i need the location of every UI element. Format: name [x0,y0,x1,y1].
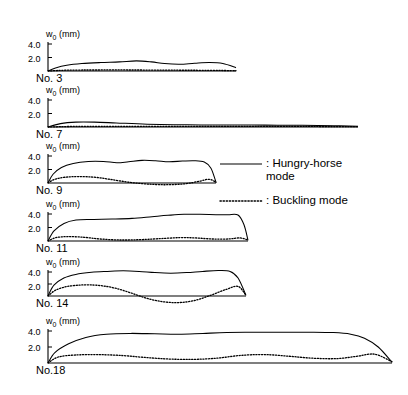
y-axis-label-panel-3: w0 (mm) [46,199,80,211]
curve-buckling-panel-3 [48,237,248,241]
y-axis-label-panel-4: w0 (mm) [46,257,80,269]
y-tick-4-0-panel-2: 4.0 [28,152,41,162]
panel-label-no-9: No. 9 [36,184,62,196]
y-tick-2-0-panel-1: 2.0 [28,110,41,120]
legend: : Hungry-horse mode : Buckling mode [218,157,404,208]
panel-no-3: 4.0 2.0 w0 (mm) No. 3 [0,14,408,76]
panel-no-14: 4.0 2.0 w0 (mm) No. 14 [0,255,408,313]
legend-label-hungry-horse: : Hungry-horse mode [266,157,342,183]
legend-label-buckling: : Buckling mode [266,194,348,207]
y-axis-label-panel-1: w0 (mm) [46,85,80,97]
curve-buckling-panel-5 [48,354,392,363]
y-axis-label-panel-2: w0 (mm) [46,141,80,153]
panel-label-no-11: No. 11 [36,242,68,254]
y-axis-label-panel-0: w0 (mm) [46,29,80,41]
legend-entry-hungry-horse: : Hungry-horse mode [218,157,404,183]
y-tick-4-0-panel-4: 4.0 [28,268,41,278]
y-axis-label-panel-5: w0 (mm) [46,316,80,328]
curve-hungry-horse-panel-4 [48,270,246,296]
y-tick-2-0-panel-3: 2.0 [28,224,41,234]
panel-label-no-18: No.18 [36,364,65,376]
y-tick-2-0-panel-0: 2.0 [28,54,41,64]
panel-no-18: 4.0 2.0 w0 (mm) No.18 [0,313,408,385]
y-tick-2-0-panel-4: 2.0 [28,282,41,292]
y-tick-4-0-panel-3: 4.0 [28,210,41,220]
plot-area-panel-0 [0,14,408,76]
y-tick-4-0-panel-0: 4.0 [28,40,41,50]
y-tick-2-0-panel-2: 2.0 [28,166,41,176]
y-tick-4-0-panel-1: 4.0 [28,96,41,106]
y-tick-2-0-panel-5: 2.0 [28,343,41,353]
legend-entry-buckling: : Buckling mode [218,194,404,207]
curve-buckling-panel-4 [48,285,246,303]
curve-hungry-horse-panel-2 [48,160,216,183]
deflection-mode-figure: 4.0 2.0 w0 (mm) No. 3 4.0 2.0 w0 (mm) No… [0,0,408,395]
solid-line-sample-icon [218,157,264,169]
dotted-line-sample-icon [218,194,264,206]
panel-label-no-14: No. 14 [36,297,68,309]
panel-no-7: 4.0 2.0 w0 (mm) No. 7 [0,83,408,139]
y-tick-4-0-panel-5: 4.0 [28,327,41,337]
